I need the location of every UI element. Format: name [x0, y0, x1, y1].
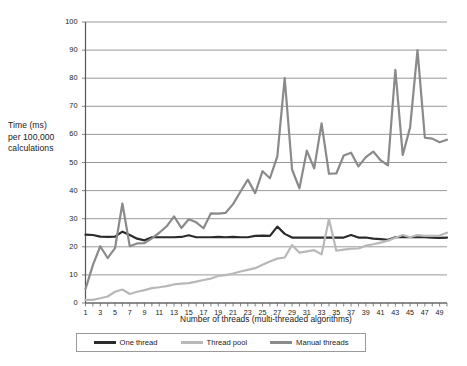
x-tick-label-21: 21 — [225, 308, 241, 317]
x-tick-label-13: 13 — [166, 308, 182, 317]
x-tick-label-3: 3 — [92, 308, 108, 317]
x-tick-label-5: 5 — [107, 308, 123, 317]
y-tick-label-80: 80 — [56, 73, 78, 82]
y-tick-label-90: 90 — [56, 45, 78, 54]
x-tick-label-19: 19 — [210, 308, 226, 317]
x-tick-label-43: 43 — [387, 308, 403, 317]
x-tick-label-39: 39 — [358, 308, 374, 317]
line-chart: Time (ms) per 100,000 calculations Numbe… — [0, 0, 467, 366]
x-tick-label-35: 35 — [328, 308, 344, 317]
legend-item-thread-pool[interactable]: Thread pool — [181, 338, 248, 347]
x-tick-label-47: 47 — [417, 308, 433, 317]
legend-label: Thread pool — [207, 338, 248, 347]
legend-item-manual-threads[interactable]: Manual threads — [270, 338, 348, 347]
x-tick-label-1: 1 — [78, 308, 94, 317]
x-tick-label-11: 11 — [151, 308, 167, 317]
x-tick-label-33: 33 — [314, 308, 330, 317]
x-tick-label-45: 45 — [402, 308, 418, 317]
y-tick-label-100: 100 — [56, 17, 78, 26]
x-tick-label-49: 49 — [432, 308, 448, 317]
y-tick-label-10: 10 — [56, 270, 78, 279]
chart-legend: One threadThread poolManual threads — [76, 333, 366, 352]
legend-swatch-icon — [94, 341, 116, 344]
x-tick-label-15: 15 — [181, 308, 197, 317]
y-tick-label-40: 40 — [56, 186, 78, 195]
y-tick-label-30: 30 — [56, 214, 78, 223]
y-tick-label-70: 70 — [56, 101, 78, 110]
x-tick-label-29: 29 — [284, 308, 300, 317]
y-tick-label-60: 60 — [56, 129, 78, 138]
x-tick-label-23: 23 — [240, 308, 256, 317]
legend-item-one-thread[interactable]: One thread — [94, 338, 158, 347]
y-axis-title-line-3: calculations — [8, 143, 82, 155]
y-tick-label-0: 0 — [56, 298, 78, 307]
series-line-manual-threads — [86, 50, 448, 289]
legend-label: One thread — [120, 338, 158, 347]
x-tick-label-7: 7 — [122, 308, 138, 317]
x-tick-label-25: 25 — [255, 308, 271, 317]
y-tick-label-20: 20 — [56, 242, 78, 251]
series-line-thread-pool — [86, 219, 448, 300]
legend-label: Manual threads — [296, 338, 348, 347]
x-tick-label-9: 9 — [137, 308, 153, 317]
y-tick-label-50: 50 — [56, 158, 78, 167]
x-tick-label-41: 41 — [373, 308, 389, 317]
x-tick-label-31: 31 — [299, 308, 315, 317]
x-tick-label-17: 17 — [196, 308, 212, 317]
x-tick-label-27: 27 — [269, 308, 285, 317]
legend-swatch-icon — [270, 341, 292, 344]
legend-swatch-icon — [181, 341, 203, 344]
x-tick-label-37: 37 — [343, 308, 359, 317]
